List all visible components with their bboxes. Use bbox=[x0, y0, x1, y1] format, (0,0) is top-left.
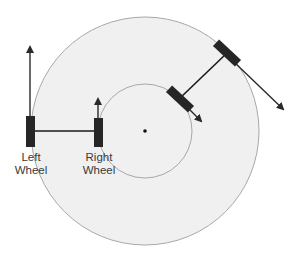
left-wheel bbox=[26, 116, 35, 147]
right-wheel-label-line2: Wheel bbox=[83, 164, 116, 176]
center-of-rotation-dot bbox=[143, 129, 147, 133]
right-wheel bbox=[94, 118, 103, 147]
right-wheel-label-line1: Right bbox=[86, 151, 114, 163]
differential-drive-turning-diagram: Left Wheel Right Wheel bbox=[0, 0, 299, 266]
left-wheel-label-line1: Left bbox=[21, 151, 41, 163]
left-wheel-label-line2: Wheel bbox=[15, 164, 48, 176]
